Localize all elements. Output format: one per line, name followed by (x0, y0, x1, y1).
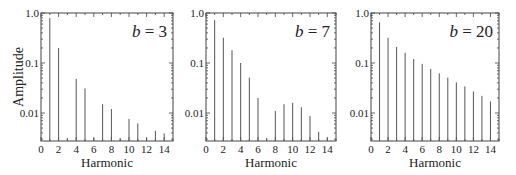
x-tick-label: 12 (468, 143, 479, 155)
y-tick-label: 0.1 (190, 57, 204, 69)
panel-b-7: 1.00.10.0102468101214Harmonicb = 7 (185, 7, 336, 170)
x-tick-label: 8 (273, 143, 279, 155)
x-tick-label: 0 (203, 143, 209, 155)
x-tick-label: 10 (124, 143, 136, 155)
panel-annotation: b = 20 (449, 22, 493, 41)
y-tick-label: 0.1 (355, 57, 369, 69)
x-tick-label: 6 (419, 143, 425, 155)
y-tick-label: 0.01 (20, 107, 39, 119)
x-tick-label: 12 (305, 143, 316, 155)
x-tick-label: 10 (287, 143, 299, 155)
panel-b-20: 1.00.10.0102468101214Harmonicb = 20 (350, 7, 499, 170)
x-tick-label: 4 (73, 143, 79, 155)
y-tick-label: 1.0 (25, 7, 39, 19)
x-tick-label: 6 (255, 143, 261, 155)
x-tick-label: 0 (38, 143, 44, 155)
x-tick-label: 2 (385, 143, 391, 155)
x-axis-label: Harmonic (245, 155, 297, 170)
x-tick-label: 14 (322, 143, 334, 155)
panel-annotation: b = 3 (132, 22, 167, 41)
panel-b-3: 1.00.10.0102468101214Harmonicb = 3 (20, 7, 173, 170)
y-tick-label: 1.0 (190, 7, 204, 19)
x-tick-label: 14 (159, 143, 171, 155)
y-axis-label: Amplitude (11, 47, 26, 107)
x-tick-label: 6 (91, 143, 97, 155)
x-axis-label: Harmonic (409, 155, 461, 170)
x-tick-label: 0 (368, 143, 374, 155)
x-tick-label: 2 (221, 143, 227, 155)
x-axis-label: Harmonic (81, 155, 133, 170)
panel-annotation: b = 7 (295, 22, 331, 41)
y-tick-label: 0.1 (25, 57, 39, 69)
x-tick-label: 4 (402, 143, 408, 155)
x-tick-label: 12 (141, 143, 152, 155)
y-tick-label: 1.0 (355, 7, 369, 19)
x-tick-label: 10 (451, 143, 463, 155)
y-tick-label: 0.01 (185, 107, 204, 119)
y-tick-label: 0.01 (350, 107, 369, 119)
harmonic-amplitude-figure: Amplitude 1.00.10.0102468101214Harmonicb… (0, 0, 516, 175)
x-tick-label: 2 (56, 143, 62, 155)
x-tick-label: 8 (437, 143, 443, 155)
plots-svg: Amplitude 1.00.10.0102468101214Harmonicb… (0, 0, 516, 175)
x-tick-label: 14 (485, 143, 497, 155)
x-tick-label: 4 (238, 143, 244, 155)
x-tick-label: 8 (109, 143, 115, 155)
